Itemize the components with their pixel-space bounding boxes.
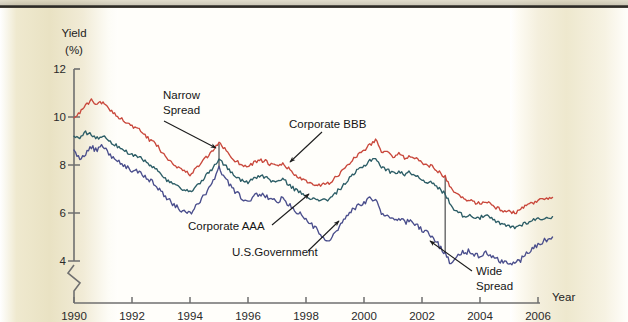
x-tick-2002: 2002 <box>409 310 435 322</box>
series-line-corporate-aaa <box>74 131 553 229</box>
x-tick-1992: 1992 <box>119 310 145 322</box>
x-tick-2004: 2004 <box>467 310 493 322</box>
chart-card: 12 10 8 6 4 1990 1992 1994 1996 1998 200… <box>0 9 628 314</box>
x-axis-ticks <box>74 297 538 303</box>
x-tick-1994: 1994 <box>177 310 203 322</box>
series-line-corporate-bbb <box>74 99 553 214</box>
annotation-narrow-spread-line2: Spread <box>163 104 200 116</box>
annotation-leaders <box>164 121 472 271</box>
figure-page: 12 10 8 6 4 1990 1992 1994 1996 1998 200… <box>0 0 628 322</box>
yield-spread-chart: 12 10 8 6 4 1990 1992 1994 1996 1998 200… <box>0 9 628 322</box>
y-tick-4: 4 <box>60 255 67 267</box>
y-tick-10: 10 <box>53 111 66 123</box>
x-tick-1998: 1998 <box>293 310 319 322</box>
y-tick-12: 12 <box>53 63 66 75</box>
y-axis-title-line1: Yield <box>61 27 86 39</box>
x-tick-1996: 1996 <box>235 310 261 322</box>
annotation-wide-spread-line1: Wide <box>476 265 502 277</box>
y-tick-6: 6 <box>60 207 66 219</box>
top-rule <box>0 5 628 8</box>
annotation-corporate-aaa: Corporate AAA <box>188 220 265 232</box>
axis-lines <box>68 69 540 303</box>
annotation-corporate-bbb: Corporate BBB <box>289 118 367 130</box>
annotation-us-government: U.S.Government <box>232 246 318 258</box>
annotation-narrow-spread-line1: Narrow <box>163 89 201 101</box>
x-tick-1990: 1990 <box>61 310 87 322</box>
y-tick-8: 8 <box>60 159 66 171</box>
annotation-wide-spread-line2: Spread <box>476 280 513 292</box>
x-axis-title: Year <box>552 291 575 303</box>
y-axis-title-line2: (%) <box>65 44 83 56</box>
x-tick-2000: 2000 <box>351 310 377 322</box>
x-tick-2006: 2006 <box>525 310 551 322</box>
